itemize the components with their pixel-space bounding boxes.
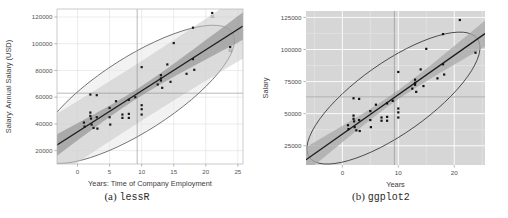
y-tick-label: 100000 <box>32 40 53 47</box>
subfigure-b-ggplot2: 01020250005000075000100000125000YearsSal… <box>254 0 508 218</box>
y-tick-label: 20000 <box>35 147 53 154</box>
data-point <box>96 94 98 96</box>
data-point <box>169 81 171 83</box>
caption-b-name: ggplot2 <box>368 192 410 203</box>
data-point <box>355 129 357 131</box>
x-axis-title: Years: Time of Company Employment <box>88 179 212 188</box>
data-point <box>173 42 175 44</box>
data-point <box>386 116 388 118</box>
x-tick-label: 10 <box>138 168 145 175</box>
data-point <box>420 68 422 70</box>
data-point <box>141 104 143 106</box>
x-tick-label: 10 <box>395 169 402 176</box>
data-point <box>443 73 445 75</box>
data-point <box>108 116 110 118</box>
data-point <box>425 48 427 50</box>
data-point <box>352 114 354 116</box>
data-point <box>411 88 413 90</box>
y-tick-label: 80000 <box>35 67 53 74</box>
data-point <box>442 33 444 35</box>
data-point <box>459 19 461 21</box>
x-tick-label: 20 <box>202 168 209 175</box>
data-point <box>347 128 349 130</box>
data-point <box>415 91 417 93</box>
data-point <box>89 111 91 113</box>
data-point <box>128 117 130 119</box>
y-axis-title: Salary <box>261 77 270 98</box>
x-tick-label: 25 <box>234 168 241 175</box>
data-point <box>397 107 399 109</box>
caption-a-name: lessR <box>120 192 150 203</box>
data-point <box>354 126 356 128</box>
data-point <box>358 119 360 121</box>
caption-a: (a) lessR <box>0 190 254 203</box>
data-point <box>192 58 194 60</box>
data-point-label: 16 <box>210 15 214 19</box>
data-point <box>397 71 399 73</box>
y-tick-label: 60000 <box>35 93 53 100</box>
y-tick-label: 25000 <box>284 142 302 149</box>
data-point-label: 34 <box>228 49 232 53</box>
data-point <box>442 63 444 65</box>
data-point <box>369 119 371 121</box>
data-point <box>128 99 130 101</box>
data-point <box>92 127 94 129</box>
data-point <box>89 115 91 117</box>
data-point <box>83 121 85 123</box>
data-point <box>141 113 143 115</box>
data-point <box>109 123 111 125</box>
x-axis-title: Years <box>386 180 405 189</box>
data-point <box>375 104 377 106</box>
data-point <box>141 108 143 110</box>
data-point <box>359 130 361 132</box>
data-point <box>121 113 123 115</box>
data-point <box>353 120 355 122</box>
data-point <box>386 102 388 104</box>
y-tick-label: 125000 <box>281 14 302 21</box>
data-point <box>161 87 163 89</box>
data-point <box>166 63 168 65</box>
y-axis-title: Salary: Annual Salary (USD) <box>4 40 13 133</box>
data-point <box>193 69 195 71</box>
y-tick-label: 120000 <box>32 13 53 20</box>
data-point <box>370 126 372 128</box>
data-point <box>436 77 438 79</box>
data-point <box>422 85 424 87</box>
data-point <box>83 125 85 127</box>
y-tick-label: 50000 <box>284 110 302 117</box>
data-point <box>386 120 388 122</box>
data-point <box>474 52 476 54</box>
data-point <box>121 117 123 119</box>
x-tick-label: 15 <box>170 168 177 175</box>
data-point <box>108 107 110 109</box>
data-point <box>134 96 136 98</box>
subfigure-a-lessr: 1634051015202520000400006000080000100000… <box>0 0 254 218</box>
data-point <box>96 116 98 118</box>
data-point <box>157 83 159 85</box>
caption-a-index: (a) <box>104 190 116 202</box>
y-tick-label: 100000 <box>281 46 302 53</box>
figure-two-scatterplots: 1634051015202520000400006000080000100000… <box>0 0 508 218</box>
data-point <box>229 46 231 48</box>
data-point <box>397 116 399 118</box>
data-point <box>392 100 394 102</box>
data-point <box>141 66 143 68</box>
data-point <box>352 118 354 120</box>
chart-b-svg: 01020250005000075000100000125000YearsSal… <box>254 0 508 190</box>
data-point <box>414 84 416 86</box>
data-point <box>96 127 98 129</box>
data-point <box>211 12 213 14</box>
data-point <box>380 120 382 122</box>
x-tick-label: 0 <box>341 169 345 176</box>
x-tick-label: 0 <box>76 168 80 175</box>
data-point <box>352 97 354 99</box>
data-point <box>91 123 93 125</box>
data-point <box>160 74 162 76</box>
data-point <box>414 79 416 81</box>
data-point <box>160 79 162 81</box>
data-point <box>89 93 91 95</box>
data-point <box>397 111 399 113</box>
data-point <box>192 27 194 29</box>
data-point <box>414 82 416 84</box>
data-point <box>185 73 187 75</box>
